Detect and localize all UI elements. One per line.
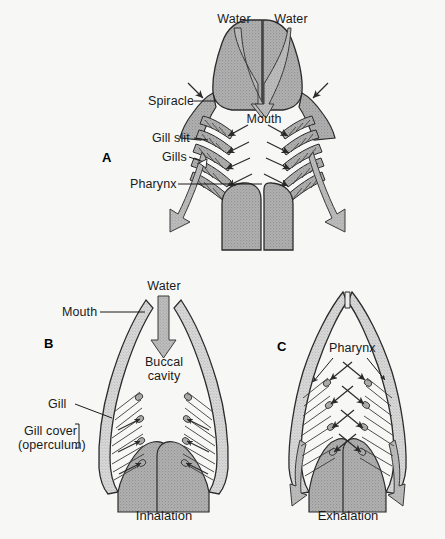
panel-b-illustration [75, 296, 228, 512]
panel-a-gills-label: Gills [162, 150, 187, 164]
panel-b-gill-cover-label-line1: Gill cover [24, 424, 77, 438]
panel-c-caption: Exhalation [288, 508, 408, 523]
panel-b-caption: Inhalation [104, 508, 224, 523]
panel-a-illustration [0, 0, 445, 539]
panel-a-water-left-label: Water [208, 12, 260, 26]
panel-a-mouth-label: Mouth [236, 112, 292, 126]
panel-b-buccal-cavity-label-line1: Buccal [136, 355, 192, 369]
panel-c-letter: C [277, 339, 286, 354]
panel-b-buccal-cavity-label-line2: cavity [136, 369, 192, 383]
panel-a-spiracle-label: Spiracle [148, 94, 194, 108]
panel-a-water-right-label: Water [265, 12, 317, 26]
panel-c-illustration [289, 292, 406, 512]
figure-page: Water Water Mouth Spiracle Gill slit Gil… [0, 0, 445, 539]
panel-a-letter: A [102, 150, 111, 165]
panel-b-gill-label: Gill [48, 397, 66, 411]
panel-b-letter: B [44, 336, 53, 351]
panel-a-pharynx-body [222, 183, 293, 250]
panel-a-gill-slit-label: Gill slit [152, 131, 190, 145]
panel-c-pharynx-label: Pharynx [329, 341, 376, 355]
panel-b-water-label: Water [137, 279, 191, 293]
panel-b-gill-cover-label-line2: (operculum) [18, 438, 86, 452]
panel-a-pharynx-label: Pharynx [130, 177, 177, 191]
panel-b-mouth-label: Mouth [62, 305, 97, 319]
